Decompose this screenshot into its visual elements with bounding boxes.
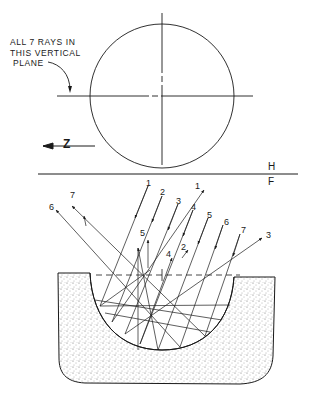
annotation-note: ALL 7 RAYS IN THIS VERTICAL PLANE [10, 37, 81, 69]
incident-ray-label-7: 7 [241, 226, 246, 235]
incident-ray-label-5: 5 [207, 211, 212, 220]
incident-ray-label-4: 4 [191, 203, 196, 212]
plane-label-h: H [268, 162, 275, 171]
reflected-ray-label-5: 5 [140, 229, 145, 238]
plane-label-f: F [268, 177, 274, 186]
annotation-line-2: THIS VERTICAL [10, 48, 81, 59]
incident-ray-label-6: 6 [224, 218, 229, 227]
incident-ray-label-2: 2 [160, 188, 165, 197]
reflected-ray-label-1: 1 [195, 182, 200, 191]
annotation-line-1: ALL 7 RAYS IN [10, 37, 81, 48]
incident-ray-label-1: 1 [146, 179, 151, 188]
annotation-line-3: PLANE [10, 58, 81, 69]
direction-label-z: Z [63, 140, 70, 149]
front-view [56, 186, 275, 384]
incident-ray-label-3: 3 [176, 197, 181, 206]
reflected-ray-label-7: 7 [70, 191, 75, 200]
reflected-ray-label-4: 4 [166, 250, 171, 259]
reflected-ray-label-2: 2 [181, 243, 186, 252]
reflected-ray-label-3: 3 [266, 231, 271, 240]
reflected-ray-label-6: 6 [49, 203, 54, 212]
